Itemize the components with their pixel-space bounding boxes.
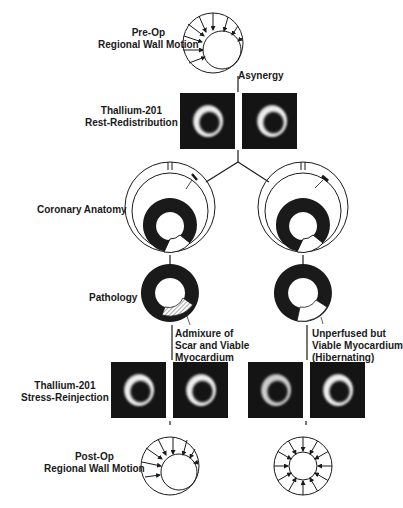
preop-wall-motion-diagram xyxy=(183,13,243,73)
coronary-left-diagram xyxy=(125,162,215,253)
pathology-right-diagram xyxy=(274,264,332,324)
postop-right-wall-motion-diagram xyxy=(274,437,332,495)
diagram-graphics xyxy=(0,0,403,508)
postop-left-wall-motion-diagram xyxy=(141,437,199,495)
pathology-left-diagram xyxy=(141,264,199,325)
coronary-right-diagram xyxy=(258,162,348,253)
connector-lines xyxy=(170,76,307,425)
